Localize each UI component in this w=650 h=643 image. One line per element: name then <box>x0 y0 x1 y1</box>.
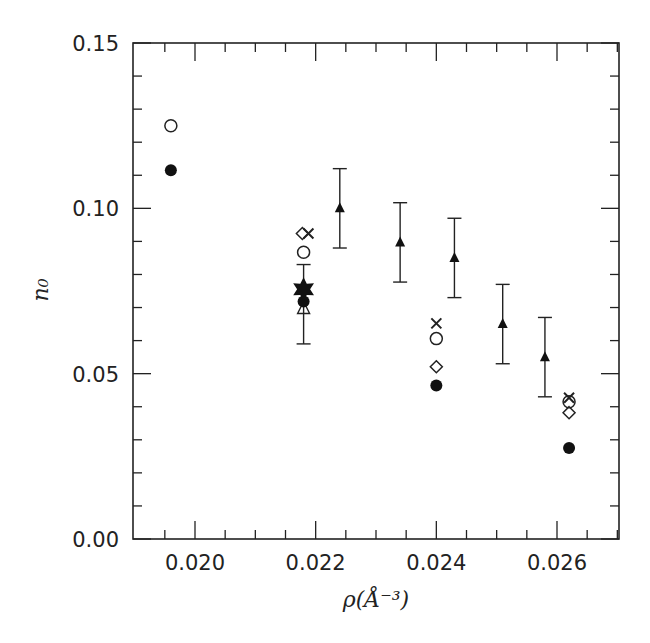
open-circle-marker <box>165 120 177 132</box>
tick-labels: 0.0200.0220.0240.0260.000.050.100.15 <box>72 32 587 575</box>
diamond-marker <box>296 227 308 239</box>
open-circle-marker <box>430 333 442 345</box>
plot-frame <box>133 43 619 539</box>
x-tick-label: 0.022 <box>286 551 346 575</box>
diamond-marker <box>430 361 442 373</box>
filled-triangle-marker <box>335 202 345 212</box>
x-tick-label: 0.024 <box>406 551 466 575</box>
x-axis-label: ρ(Å⁻³) <box>342 585 409 612</box>
y-tick-label: 0.15 <box>72 32 119 56</box>
filled-circle-marker <box>165 164 177 176</box>
filled-circle-marker <box>563 442 575 454</box>
filled-circle-marker <box>430 380 442 392</box>
star-marker <box>293 277 314 301</box>
y-tick-label: 0.10 <box>72 197 119 221</box>
cross-marker <box>303 228 313 238</box>
cross-marker <box>431 318 441 328</box>
x-tick-label: 0.026 <box>527 551 587 575</box>
y-tick-label: 0.00 <box>72 528 119 552</box>
y-axis-label: n₀ <box>28 278 53 301</box>
data-points <box>165 120 575 454</box>
filled-triangle-marker <box>395 236 405 246</box>
y-tick-label: 0.05 <box>72 363 119 387</box>
scatter-chart: 0.0200.0220.0240.0260.000.050.100.15 ρ(Å… <box>0 0 650 643</box>
filled-triangle-marker <box>540 351 550 361</box>
open-circle-marker <box>298 246 310 258</box>
plot-border <box>133 43 619 539</box>
filled-triangle-marker <box>449 252 459 262</box>
filled-triangle-marker <box>498 318 508 328</box>
axis-ticks <box>133 43 619 539</box>
x-tick-label: 0.020 <box>165 551 225 575</box>
